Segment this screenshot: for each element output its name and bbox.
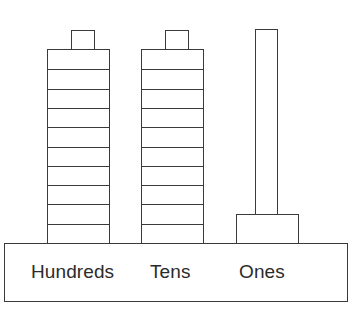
segment-divider bbox=[48, 147, 109, 148]
base-label-ones: Ones bbox=[239, 259, 285, 285]
segment-divider bbox=[48, 224, 109, 225]
ones-post-bar bbox=[255, 29, 278, 219]
hundreds-column-stack bbox=[47, 49, 110, 244]
segment-divider bbox=[48, 166, 109, 167]
segment-divider bbox=[142, 224, 203, 225]
tens-cap-block bbox=[165, 30, 189, 50]
segment-divider bbox=[142, 166, 203, 167]
segment-divider bbox=[142, 147, 203, 148]
place-value-diagram: Hundreds Tens Ones bbox=[0, 0, 363, 316]
segment-divider bbox=[48, 89, 109, 90]
segment-divider bbox=[48, 204, 109, 205]
segment-divider bbox=[48, 69, 109, 70]
segment-divider bbox=[142, 185, 203, 186]
segment-divider bbox=[142, 108, 203, 109]
ones-footing-block bbox=[236, 214, 299, 244]
base-label-tens: Tens bbox=[150, 259, 191, 285]
segment-divider bbox=[48, 108, 109, 109]
segment-divider bbox=[142, 127, 203, 128]
segment-divider bbox=[48, 185, 109, 186]
hundreds-cap-block bbox=[71, 30, 95, 50]
tens-column-stack bbox=[141, 49, 204, 244]
segment-divider bbox=[142, 204, 203, 205]
base-label-hundreds: Hundreds bbox=[31, 259, 114, 285]
segment-divider bbox=[48, 127, 109, 128]
segment-divider bbox=[142, 69, 203, 70]
segment-divider bbox=[142, 89, 203, 90]
